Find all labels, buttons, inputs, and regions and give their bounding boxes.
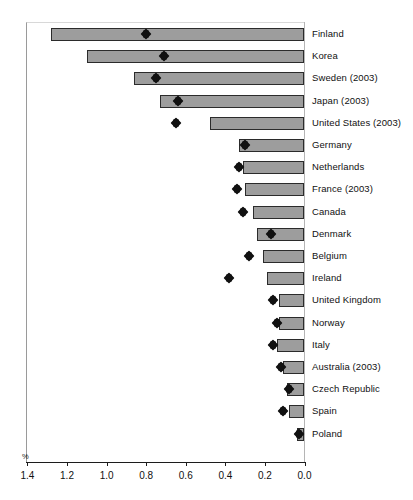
- x-tick: [146, 462, 147, 466]
- bar-ireland: [267, 272, 305, 285]
- category-label: Australia (2003): [312, 360, 381, 373]
- x-tick: [265, 462, 266, 466]
- category-label: Spain: [312, 404, 337, 417]
- chart-row: Canada: [0, 202, 413, 224]
- chart-figure: FinlandKoreaSweden (2003)Japan (2003)Uni…: [0, 0, 413, 500]
- x-tick-label: 1.2: [60, 470, 74, 481]
- chart-row: Sweden (2003): [0, 68, 413, 90]
- chart-row: Germany: [0, 135, 413, 157]
- marker-united-states-2003: [170, 117, 181, 128]
- chart-row: Finland: [0, 24, 413, 46]
- category-label: Italy: [312, 338, 330, 351]
- marker-canada: [238, 206, 249, 217]
- category-label: United States (2003): [312, 116, 401, 129]
- bar-norway: [279, 317, 305, 330]
- x-tick: [186, 462, 187, 466]
- marker-belgium: [244, 250, 255, 261]
- chart-row: Korea: [0, 46, 413, 68]
- category-label: Japan (2003): [312, 94, 369, 107]
- chart-row: Australia (2003): [0, 357, 413, 379]
- chart-row: Czech Republic: [0, 379, 413, 401]
- category-label: Ireland: [312, 271, 342, 284]
- marker-france-2003: [232, 184, 243, 195]
- bar-denmark: [257, 228, 304, 241]
- x-tick-label: 0.2: [258, 470, 272, 481]
- x-tick-label: 0.4: [218, 470, 232, 481]
- category-label: Poland: [312, 427, 342, 440]
- x-tick: [67, 462, 68, 466]
- x-tick: [225, 462, 226, 466]
- x-tick-label: 1.4: [20, 470, 34, 481]
- category-label: Finland: [312, 27, 344, 40]
- chart-row: Italy: [0, 335, 413, 357]
- marker-spain: [277, 406, 288, 417]
- x-tick: [107, 462, 108, 466]
- chart-row: Belgium: [0, 246, 413, 268]
- bar-finland: [51, 28, 304, 41]
- chart-row: Poland: [0, 424, 413, 446]
- category-label: Sweden (2003): [312, 71, 378, 84]
- chart-row: Ireland: [0, 268, 413, 290]
- category-label: Czech Republic: [312, 382, 380, 395]
- chart-row: Netherlands: [0, 157, 413, 179]
- x-axis-unit-label: %: [22, 452, 29, 461]
- category-label: Denmark: [312, 227, 351, 240]
- chart-row: Spain: [0, 401, 413, 423]
- chart-row: Japan (2003): [0, 91, 413, 113]
- chart-row: United Kingdom: [0, 290, 413, 312]
- category-label: Korea: [312, 49, 338, 62]
- chart-row: Norway: [0, 313, 413, 335]
- bar-belgium: [263, 250, 305, 263]
- bar-united-states-2003: [210, 117, 305, 130]
- bar-netherlands: [243, 161, 304, 174]
- chart-row: France (2003): [0, 179, 413, 201]
- bar-canada: [253, 206, 304, 219]
- bar-spain: [289, 405, 305, 418]
- x-tick-label: 1.0: [100, 470, 114, 481]
- marker-united-kingdom: [267, 295, 278, 306]
- x-tick: [27, 462, 28, 466]
- chart-row: United States (2003): [0, 113, 413, 135]
- category-label: United Kingdom: [312, 293, 381, 306]
- x-tick-label: 0.6: [179, 470, 193, 481]
- category-label: Norway: [312, 316, 345, 329]
- bar-italy: [277, 339, 305, 352]
- bar-united-kingdom: [279, 294, 305, 307]
- category-label: Germany: [312, 138, 352, 151]
- category-label: Netherlands: [312, 160, 364, 173]
- chart-row: Denmark: [0, 224, 413, 246]
- category-label: Belgium: [312, 249, 347, 262]
- category-label: Canada: [312, 205, 346, 218]
- marker-ireland: [224, 273, 235, 284]
- bar-france-2003: [245, 183, 304, 196]
- x-tick: [305, 462, 306, 466]
- x-tick-label: 0.0: [298, 470, 312, 481]
- x-tick-label: 0.8: [139, 470, 153, 481]
- bar-korea: [87, 50, 305, 63]
- category-label: France (2003): [312, 182, 373, 195]
